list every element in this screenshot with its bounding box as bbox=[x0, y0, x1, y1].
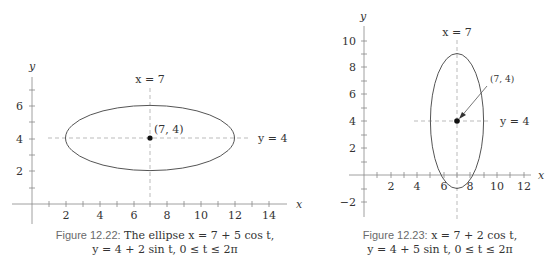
left-xtick-label: 12 bbox=[228, 209, 242, 222]
right-caption-line1: x = 7 + 2 cos t, bbox=[428, 229, 517, 242]
left-ytick-label: 2 bbox=[16, 165, 23, 178]
left-xtick-label: 4 bbox=[97, 209, 104, 222]
right-xtick-label: 4 bbox=[414, 180, 421, 193]
right-ytick-label: 6 bbox=[349, 88, 356, 101]
left-ytick-label: 4 bbox=[16, 133, 23, 146]
right-chart: 2 4 6 8 10 12 −2 2 4 6 8 10 x y (7, 4) x… bbox=[340, 10, 545, 220]
right-center-point bbox=[454, 118, 460, 124]
right-xtick-label: 2 bbox=[388, 180, 395, 193]
right-point-label: (7, 4) bbox=[490, 74, 514, 84]
left-xtick-label: 8 bbox=[164, 209, 171, 222]
left-caption: Figure 12.22: The ellipse x = 7 + 5 cos … bbox=[20, 228, 310, 257]
right-y-axis-label: y bbox=[359, 10, 367, 23]
left-chart: 2 4 6 8 10 12 14 2 4 6 x y (7, 4) x = 7 … bbox=[12, 60, 303, 224]
right-caption: Figure 12.23: x = 7 + 2 cos t, y = 4 + 5… bbox=[340, 228, 540, 257]
left-xtick-label: 14 bbox=[262, 209, 276, 222]
left-caption-figure-number: Figure 12.22: bbox=[56, 229, 121, 241]
right-ytick-label: 10 bbox=[342, 35, 356, 48]
right-xtick-label: 10 bbox=[490, 180, 504, 193]
left-xtick-label: 10 bbox=[194, 209, 208, 222]
right-hline-label: y = 4 bbox=[499, 115, 529, 128]
left-x-axis-label: x bbox=[296, 198, 303, 211]
left-caption-line2: y = 4 + 2 sin t, 0 ≤ t ≤ 2π bbox=[20, 243, 310, 257]
right-caption-line2: y = 4 + 5 sin t, 0 ≤ t ≤ 2π bbox=[340, 243, 540, 257]
right-ytick-label: 4 bbox=[349, 115, 356, 128]
right-xtick-label: 6 bbox=[441, 180, 448, 193]
right-caption-figure-number: Figure 12.23: bbox=[363, 229, 428, 241]
right-xtick-label: 12 bbox=[517, 180, 531, 193]
left-center-point bbox=[147, 135, 152, 140]
left-xtick-label: 2 bbox=[63, 209, 70, 222]
left-caption-line1: The ellipse x = 7 + 5 cos t, bbox=[121, 229, 275, 242]
arrowhead-icon bbox=[459, 112, 466, 119]
left-point-label: (7, 4) bbox=[154, 123, 184, 136]
left-vline-label: x = 7 bbox=[135, 73, 164, 86]
right-ytick-label: 8 bbox=[349, 61, 356, 74]
left-xtick-label: 6 bbox=[131, 209, 138, 222]
right-ytick-label: 2 bbox=[349, 142, 356, 155]
left-y-axis-label: y bbox=[28, 60, 36, 73]
right-vline-label: x = 7 bbox=[442, 26, 471, 39]
right-x-axis-label: x bbox=[538, 169, 545, 182]
figures-canvas: 2 4 6 8 10 12 14 2 4 6 x y (7, 4) x = 7 … bbox=[0, 0, 559, 266]
right-xtick-label: 8 bbox=[467, 180, 474, 193]
left-ytick-label: 6 bbox=[16, 100, 23, 113]
left-hline-label: y = 4 bbox=[257, 132, 287, 145]
right-ytick-label: −2 bbox=[340, 196, 356, 209]
